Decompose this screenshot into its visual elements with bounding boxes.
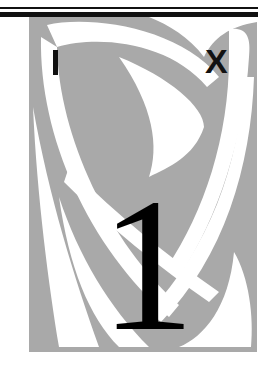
top-thin-rule — [0, 7, 258, 9]
left-letter-i: I — [53, 50, 58, 75]
right-letter-x: X — [205, 44, 228, 78]
chapter-numeral: 1 — [100, 170, 195, 360]
